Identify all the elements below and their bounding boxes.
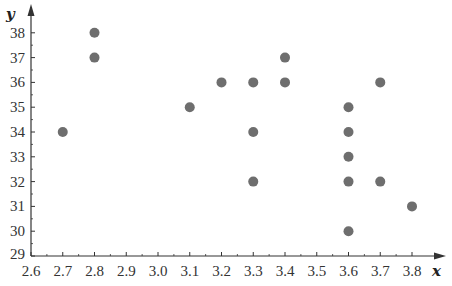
data-point — [407, 201, 417, 211]
data-points — [58, 28, 417, 236]
data-point — [344, 127, 354, 137]
x-tick-label: 2.8 — [85, 263, 104, 279]
data-point — [280, 53, 290, 63]
y-tick-label: 37 — [10, 50, 26, 66]
x-tick-label: 3.2 — [212, 263, 231, 279]
data-point — [248, 77, 258, 87]
y-tick-label: 31 — [10, 198, 25, 214]
x-tick-label: 3.7 — [371, 263, 390, 279]
x-tick-label: 2.6 — [22, 263, 41, 279]
x-tick-label: 3.0 — [149, 263, 168, 279]
x-tick-label: 3.3 — [244, 263, 263, 279]
data-point — [344, 177, 354, 187]
y-axis-arrow-icon — [28, 4, 35, 16]
data-point — [248, 127, 258, 137]
data-point — [90, 28, 100, 38]
x-tick-label: 3.4 — [276, 263, 295, 279]
data-point — [344, 102, 354, 112]
y-tick-label: 36 — [10, 74, 26, 90]
x-tick-label: 3.6 — [339, 263, 358, 279]
x-tick-label: 3.5 — [307, 263, 326, 279]
y-tick-label: 30 — [10, 223, 25, 239]
y-tick-label: 35 — [10, 99, 25, 115]
x-axis-arrow-icon — [434, 253, 446, 260]
data-point — [375, 77, 385, 87]
data-point — [90, 53, 100, 63]
axes — [28, 4, 447, 260]
y-tick-label: 34 — [10, 124, 26, 140]
data-point — [185, 102, 195, 112]
x-axis-title: x — [431, 262, 442, 280]
x-tick-label: 2.7 — [53, 263, 72, 279]
data-point — [217, 77, 227, 87]
data-point — [58, 127, 68, 137]
y-tick-label: 38 — [10, 25, 25, 41]
data-point — [248, 177, 258, 187]
scatter-chart: 2.62.72.82.93.03.13.23.33.43.53.63.73.8 … — [0, 0, 452, 286]
data-point — [344, 152, 354, 162]
y-axis-title: y — [5, 5, 16, 23]
x-tick-label: 2.9 — [117, 263, 136, 279]
y-tick-label: 32 — [10, 174, 25, 190]
y-tick-label: 33 — [10, 149, 25, 165]
data-point — [280, 77, 290, 87]
y-tick-label: 29 — [10, 246, 25, 262]
data-point — [375, 177, 385, 187]
x-tick-label: 3.1 — [180, 263, 199, 279]
data-point — [344, 226, 354, 236]
x-tick-label: 3.8 — [403, 263, 422, 279]
